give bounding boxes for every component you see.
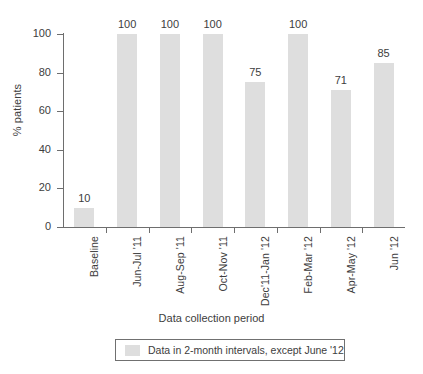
- bar: [374, 63, 394, 227]
- chart-legend: Data in 2-month intervals, except June '…: [115, 339, 345, 361]
- bar: [74, 208, 94, 227]
- y-tick-label: 40: [5, 143, 51, 155]
- y-tick-0: [57, 227, 63, 228]
- bar-value-label: 10: [59, 192, 109, 204]
- bar: [117, 34, 137, 227]
- x-tick: [362, 228, 363, 233]
- x-category-label: Jun-Jul '11: [131, 236, 143, 287]
- x-category-label: Apr-May '12: [345, 236, 357, 293]
- bar-value-label: 100: [273, 18, 323, 30]
- legend-swatch-icon: [125, 345, 140, 356]
- x-category-label: Oct-Nov '11: [217, 236, 229, 291]
- bar: [331, 90, 351, 227]
- bar-value-label: 85: [359, 47, 409, 59]
- x-tick: [277, 228, 278, 233]
- x-category-label: Aug-Sep '11: [174, 236, 186, 294]
- x-tick: [191, 228, 192, 233]
- bars-container: [63, 34, 405, 227]
- bar: [160, 34, 180, 227]
- y-tick-label: 20: [5, 181, 51, 193]
- x-tick: [149, 228, 150, 233]
- bar: [203, 34, 223, 227]
- x-tick: [320, 228, 321, 233]
- x-category-label: Feb-Mar '12: [302, 236, 314, 293]
- bar-chart-figure: % patients 020406080100 1010010010075100…: [0, 0, 423, 374]
- bar: [288, 34, 308, 227]
- x-category-label: Jun '12: [388, 236, 400, 270]
- x-category-label: Baseline: [88, 236, 100, 277]
- y-tick-label: 0: [5, 220, 51, 232]
- x-tick: [106, 228, 107, 233]
- y-tick-label: 60: [5, 104, 51, 116]
- x-axis-title: Data collection period: [0, 312, 423, 324]
- bar-value-label: 100: [188, 18, 238, 30]
- legend-label: Data in 2-month intervals, except June '…: [148, 344, 344, 356]
- y-tick-label: 100: [5, 27, 51, 39]
- bar: [245, 82, 265, 227]
- bar-value-label: 71: [316, 74, 366, 86]
- bar-value-label: 75: [230, 66, 280, 78]
- x-tick: [234, 228, 235, 233]
- x-category-label: Dec'11-Jan '12: [259, 236, 271, 306]
- y-tick-label: 80: [5, 66, 51, 78]
